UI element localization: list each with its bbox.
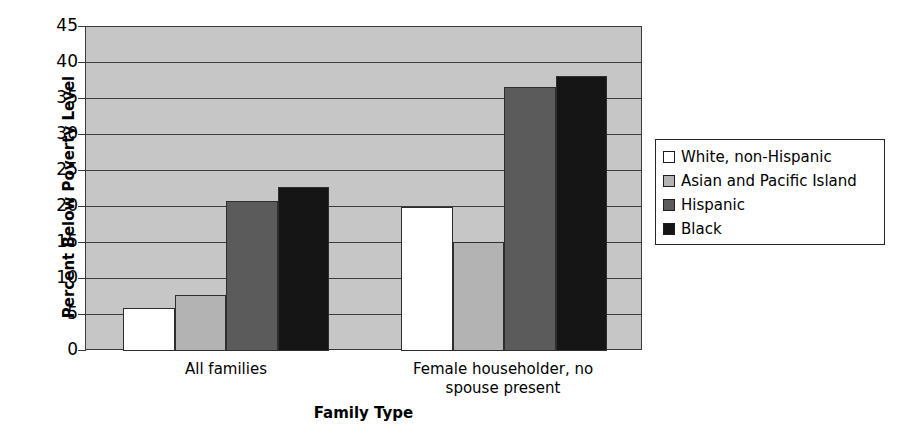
x-axis-category-label-0: All families bbox=[120, 360, 332, 379]
legend-label: Asian and Pacific Island bbox=[681, 172, 857, 190]
bar bbox=[453, 242, 505, 351]
legend-swatch-icon bbox=[663, 223, 675, 235]
legend-label: White, non-Hispanic bbox=[681, 148, 832, 166]
legend-swatch-icon bbox=[663, 199, 675, 211]
bar bbox=[556, 76, 608, 351]
y-axis-tick-mark bbox=[78, 350, 86, 351]
y-axis-tick-mark bbox=[78, 26, 86, 27]
legend-label: Black bbox=[681, 220, 722, 238]
x-axis-category-label-line: Female householder, no bbox=[396, 360, 610, 379]
x-axis-category-label-1: Female householder, nospouse present bbox=[396, 360, 610, 398]
bar bbox=[123, 308, 175, 351]
y-axis-tick-mark bbox=[78, 62, 86, 63]
y-axis-tick-label: 10 bbox=[46, 269, 78, 286]
poverty-bar-chart: Percent Below Poverty Level 051015202530… bbox=[0, 0, 903, 446]
bar bbox=[226, 201, 278, 351]
legend-item: White, non-Hispanic bbox=[663, 145, 878, 169]
x-axis-category-label-line: spouse present bbox=[396, 379, 610, 398]
y-axis-tick-mark bbox=[78, 278, 86, 279]
y-axis-tick-mark bbox=[78, 206, 86, 207]
y-axis-tick-mark bbox=[78, 242, 86, 243]
y-axis-tick-labels: 051015202530354045 bbox=[38, 0, 78, 446]
y-axis-tick-label: 35 bbox=[46, 89, 78, 106]
y-axis-tick-label: 25 bbox=[46, 161, 78, 178]
y-axis-tick-mark bbox=[78, 134, 86, 135]
legend-item: Asian and Pacific Island bbox=[663, 169, 878, 193]
y-axis-tick-mark bbox=[78, 170, 86, 171]
legend-swatch-icon bbox=[663, 151, 675, 163]
plot-area bbox=[85, 26, 642, 350]
bar bbox=[278, 187, 330, 351]
legend-label: Hispanic bbox=[681, 196, 745, 214]
y-axis-tick-label: 5 bbox=[46, 305, 78, 322]
bar bbox=[175, 295, 227, 351]
legend: White, non-HispanicAsian and Pacific Isl… bbox=[655, 139, 885, 245]
y-axis-tick-label: 45 bbox=[46, 17, 78, 34]
x-axis-category-label-line: All families bbox=[120, 360, 332, 379]
gridline bbox=[86, 62, 641, 63]
y-axis-tick-label: 20 bbox=[46, 197, 78, 214]
y-axis-tick-mark bbox=[78, 314, 86, 315]
y-axis-tick-label: 0 bbox=[46, 341, 78, 358]
bar bbox=[504, 87, 556, 351]
y-axis-tick-label: 15 bbox=[46, 233, 78, 250]
legend-swatch-icon bbox=[663, 175, 675, 187]
y-axis-tick-mark bbox=[78, 98, 86, 99]
y-axis-line bbox=[85, 26, 86, 351]
x-axis-title: Family Type bbox=[85, 404, 642, 422]
y-axis-tick-label: 40 bbox=[46, 53, 78, 70]
y-axis-tick-label: 30 bbox=[46, 125, 78, 142]
legend-item: Black bbox=[663, 217, 878, 241]
legend-item: Hispanic bbox=[663, 193, 878, 217]
bar bbox=[401, 207, 453, 351]
